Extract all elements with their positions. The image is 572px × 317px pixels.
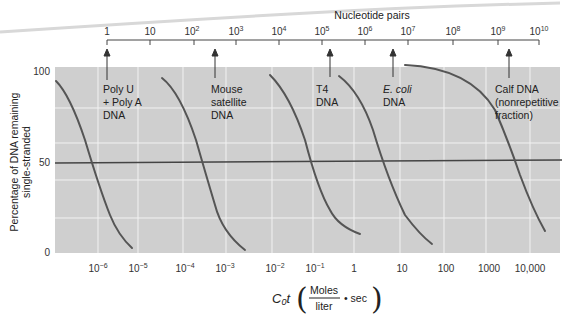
y-axis-label: Percentage of DNA remaining single-stran…	[8, 92, 32, 231]
svg-text:Mouse: Mouse	[211, 83, 243, 95]
top-tick: 109	[490, 25, 505, 37]
top-tick: 1	[104, 26, 110, 37]
x-axis-label: C0t ( Moles liter • sec )	[272, 281, 383, 316]
x-tick: 1	[351, 263, 357, 274]
x-tick: 10−5	[128, 262, 147, 274]
svg-text:(: (	[296, 281, 308, 316]
chart: Nucleotide pairs 1 10 102 103 104 105 10…	[0, 0, 572, 317]
x-tick: 100	[438, 263, 455, 274]
svg-text:DNA: DNA	[103, 109, 125, 121]
top-tick: 104	[271, 25, 286, 37]
top-tick: 10	[144, 26, 156, 37]
svg-text:DNA: DNA	[211, 109, 233, 121]
top-tick: 108	[445, 25, 460, 37]
x-tick: 10−2	[265, 262, 284, 274]
y-tick-50: 50	[39, 157, 51, 168]
svg-text:single-stranded: single-stranded	[20, 126, 32, 198]
top-axis: 1 10 102 103 104 105 106 107 108 109 101…	[104, 25, 548, 45]
svg-text:DNA: DNA	[383, 96, 405, 108]
svg-text:Poly U: Poly U	[103, 83, 134, 95]
svg-text:Moles: Moles	[310, 284, 338, 296]
top-tick: 103	[228, 25, 243, 37]
x-tick: 10−4	[175, 262, 194, 274]
y-tick-100: 100	[33, 66, 50, 77]
x-tick: 10−3	[215, 262, 234, 274]
svg-text:C0t: C0t	[272, 291, 291, 307]
x-tick: 10−6	[88, 262, 107, 274]
svg-text:E. coli: E. coli	[383, 83, 412, 95]
svg-text:Percentage of DNA remaining: Percentage of DNA remaining	[8, 92, 20, 231]
svg-text:• sec: • sec	[344, 292, 367, 304]
svg-text:(nonrepetitive: (nonrepetitive	[495, 96, 559, 108]
svg-text:liter: liter	[316, 300, 333, 312]
top-tick: 102	[184, 25, 199, 37]
svg-text:Calf DNA: Calf DNA	[495, 83, 539, 95]
top-tick: 105	[314, 25, 329, 37]
x-tick: 1000	[478, 263, 501, 274]
top-tick: 107	[400, 25, 415, 37]
y-tick-0: 0	[44, 247, 50, 258]
svg-text:): )	[371, 281, 383, 316]
svg-text:+ Poly A: + Poly A	[103, 96, 142, 108]
x-tick: 10,000	[515, 263, 546, 274]
x-tick: 10	[396, 263, 408, 274]
svg-text:fraction): fraction)	[495, 109, 533, 121]
svg-text:DNA: DNA	[316, 96, 338, 108]
svg-text:T4: T4	[316, 83, 328, 95]
top-tick: 106	[357, 25, 372, 37]
svg-text:satellite: satellite	[211, 96, 247, 108]
x-tick: 10−1	[305, 262, 324, 274]
top-tick: 1010	[530, 25, 549, 37]
top-axis-title: Nucleotide pairs	[334, 9, 409, 21]
